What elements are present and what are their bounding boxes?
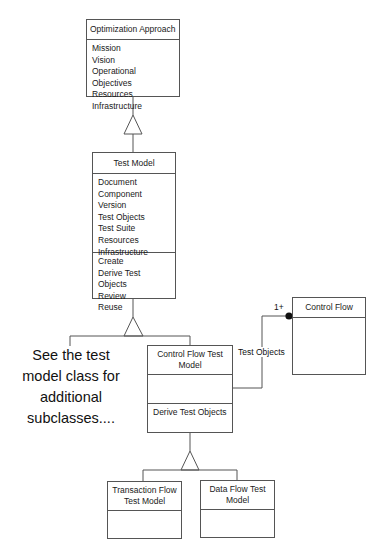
subclass-note: See the test model class for additional … bbox=[12, 345, 130, 429]
operations-section: Create Derive Test Objects Review Reuse bbox=[93, 253, 175, 317]
attribute: Vision bbox=[92, 55, 174, 67]
attributes-section: Mission Vision Operational Objectives Re… bbox=[87, 40, 179, 116]
multiplicity-label: 1+ bbox=[274, 302, 284, 312]
class-name: Control Flow bbox=[293, 298, 365, 318]
attributes-section: Document Component Version Test Objects … bbox=[93, 174, 175, 253]
operation: Derive Test Objects bbox=[98, 268, 170, 291]
attribute: Test Suite bbox=[98, 223, 170, 235]
class-optimization-approach: Optimization Approach Mission Vision Ope… bbox=[86, 19, 180, 97]
operation: Review bbox=[98, 291, 170, 303]
attribute: Document bbox=[98, 177, 170, 189]
generalization-arrow-icon bbox=[124, 115, 142, 134]
connector-lines bbox=[0, 0, 383, 558]
attributes-section bbox=[108, 511, 181, 517]
attributes-section bbox=[201, 510, 274, 516]
class-transaction-flow-test-model: Transaction Flow Test Model bbox=[107, 481, 182, 539]
attribute: Test Objects bbox=[98, 212, 170, 224]
class-name: Test Model bbox=[93, 153, 175, 174]
attribute: Mission bbox=[92, 43, 174, 55]
attribute: Version bbox=[98, 200, 170, 212]
association-label: Test Objects bbox=[238, 347, 285, 357]
attributes-section bbox=[148, 375, 232, 404]
operation: Derive Test Objects bbox=[153, 407, 227, 419]
attribute: Infrastructure bbox=[92, 101, 174, 113]
generalization-arrow-icon bbox=[181, 451, 199, 470]
class-data-flow-test-model: Data Flow Test Model bbox=[200, 480, 275, 538]
attribute: Operational Objectives bbox=[92, 66, 174, 89]
class-test-model: Test Model Document Component Version Te… bbox=[92, 152, 176, 299]
class-name: Optimization Approach bbox=[87, 20, 179, 40]
attribute: Resources bbox=[92, 89, 174, 101]
class-control-flow-test-model: Control Flow Test Model Derive Test Obje… bbox=[147, 345, 233, 433]
attribute: Resources bbox=[98, 235, 170, 247]
attribute: Component bbox=[98, 189, 170, 201]
class-name: Data Flow Test Model bbox=[201, 481, 274, 510]
attributes-section bbox=[293, 318, 365, 324]
class-control-flow: Control Flow bbox=[292, 297, 366, 375]
generalization-arrow-icon bbox=[124, 317, 143, 336]
operation: Reuse bbox=[98, 302, 170, 314]
class-name: Transaction Flow Test Model bbox=[108, 482, 181, 511]
operations-section: Derive Test Objects bbox=[148, 404, 232, 422]
class-name: Control Flow Test Model bbox=[148, 346, 232, 375]
